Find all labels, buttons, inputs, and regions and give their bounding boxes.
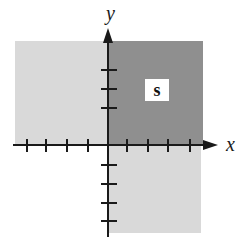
coordinate-plane-diagram: s x y bbox=[0, 0, 242, 252]
y-axis-label: y bbox=[104, 2, 115, 25]
region-label-text: s bbox=[153, 80, 160, 100]
region-quadrant-4 bbox=[108, 145, 201, 233]
y-axis-arrow-icon bbox=[103, 28, 113, 43]
region-quadrant-2 bbox=[15, 41, 108, 145]
x-axis-label: x bbox=[225, 133, 235, 155]
x-axis-arrow-icon bbox=[203, 140, 218, 150]
region-label-s: s bbox=[145, 79, 169, 101]
